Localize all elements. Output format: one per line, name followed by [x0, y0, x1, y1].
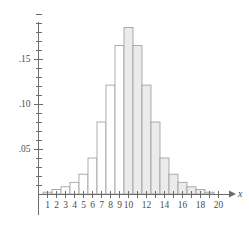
x-tick-label: 1 [45, 200, 50, 210]
x-tick-label: 20 [214, 200, 224, 210]
histogram-figure: 123456789101214161820 .05.10.15 x [0, 0, 249, 227]
x-tick-label: 3 [63, 200, 68, 210]
histogram-bar [160, 158, 169, 194]
x-tick-label: 9 [117, 200, 122, 210]
histogram-bar [88, 158, 97, 194]
x-tick-label: 2 [54, 200, 59, 210]
x-tick-label: 18 [196, 200, 206, 210]
bars-group [43, 28, 214, 195]
x-axis-tick-labels: 123456789101214161820 [45, 200, 223, 210]
y-tick-label: .05 [19, 144, 31, 154]
x-tick-label: 6 [90, 200, 95, 210]
histogram-bar [115, 46, 124, 195]
x-tick-label: 16 [178, 200, 188, 210]
histogram-bar [151, 122, 160, 194]
y-tick-label: .15 [19, 54, 31, 64]
histogram-bar [97, 122, 106, 194]
histogram-bar [142, 85, 151, 194]
x-tick-label: 14 [160, 200, 170, 210]
x-tick-label: 12 [142, 200, 152, 210]
y-axis-tick-labels: .05.10.15 [19, 54, 31, 154]
x-axis-arrow-icon [229, 191, 236, 198]
x-tick-label: 4 [72, 200, 77, 210]
histogram-bar [106, 85, 115, 194]
x-axis-title: x [237, 188, 243, 199]
x-tick-label: 8 [108, 200, 113, 210]
x-tick-label: 5 [81, 200, 86, 210]
histogram-plot: 123456789101214161820 .05.10.15 x [0, 0, 249, 227]
histogram-bar [124, 28, 133, 195]
y-tick-label: .10 [19, 99, 31, 109]
x-tick-label: 7 [99, 200, 104, 210]
x-tick-label: 10 [124, 200, 134, 210]
histogram-bar [133, 46, 142, 195]
